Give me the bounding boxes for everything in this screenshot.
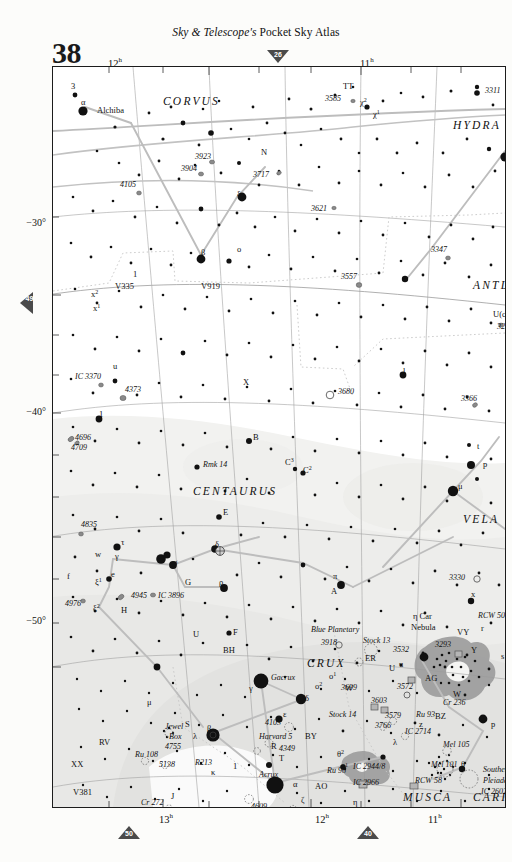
star-chart-map[interactable]: CORVUSHYDRAANTLIACENTAURUSVELACRUXMUSCAC… xyxy=(52,66,506,808)
dso-label: 3311 xyxy=(484,86,500,95)
star-label: β xyxy=(207,723,211,733)
dso-label: 4349 xyxy=(279,744,295,753)
masthead-title: Pocket Sky Atlas xyxy=(257,26,340,38)
constellation-name: HYDRA xyxy=(452,119,501,131)
dso-label: IC 2602 xyxy=(480,787,505,796)
star-label: V919 xyxy=(201,281,220,291)
page-link-left-label: 49 xyxy=(23,295,36,302)
dso-label: Stock 14 xyxy=(329,710,356,719)
star-label: ρ xyxy=(219,577,223,587)
star-label: δ xyxy=(305,693,309,703)
page-link-top[interactable]: 26 xyxy=(267,50,289,63)
dso-label: 4835 xyxy=(81,520,97,529)
page-link-bottom-left[interactable]: 50 xyxy=(118,826,140,839)
star-label: σ xyxy=(173,557,178,567)
star-label: f xyxy=(67,571,70,581)
dso-label: 3923 xyxy=(194,152,211,161)
star-label: V335 xyxy=(115,281,134,291)
dso-label: Pleiades xyxy=(482,776,505,785)
dso-label: Rmk 14 xyxy=(202,460,227,469)
constellation-name: MUSCA xyxy=(402,791,452,803)
dso-label: 3557 xyxy=(340,272,358,281)
star-label: γ xyxy=(248,683,253,693)
dso-label: 3366 xyxy=(460,394,477,403)
star-label: U(c) xyxy=(493,309,505,319)
star-label: G xyxy=(185,577,191,587)
dso-label: Cr 236 xyxy=(443,698,465,707)
dso-label: 4709 xyxy=(71,443,87,452)
star-label: 1 xyxy=(99,409,103,419)
star-label: η xyxy=(353,797,357,807)
dso-label: 3347 xyxy=(430,245,448,254)
dso-label: Ru 93 xyxy=(415,710,435,719)
dso-label: 3717 xyxy=(252,170,270,179)
page-number: 38 xyxy=(52,36,81,70)
dso-label: 3904 xyxy=(180,164,197,173)
star-label: B xyxy=(253,432,259,442)
dso-label: Southern xyxy=(483,765,505,774)
dso-label: IC 3370 xyxy=(74,372,101,381)
dso-label: 4755 xyxy=(165,742,181,751)
star-label: u xyxy=(113,361,118,371)
star-label: p xyxy=(483,459,487,469)
star-label: H xyxy=(121,605,127,615)
dso-label: 4105 xyxy=(120,180,136,189)
page-link-bottom-left-label: 50 xyxy=(118,830,140,837)
ra-label-bottom-11h: 11h xyxy=(428,812,442,825)
star-label: x1 xyxy=(93,303,100,313)
star-label: A xyxy=(331,586,338,596)
star-label: α xyxy=(81,97,86,107)
page-link-bottom-right-label: 40 xyxy=(357,830,379,837)
page-link-top-label: 26 xyxy=(267,51,289,58)
chart-canvas: CORVUSHYDRAANTLIACENTAURUSVELACRUXMUSCAC… xyxy=(53,67,505,807)
star-label: X xyxy=(243,377,249,387)
page-link-bottom-right[interactable]: 40 xyxy=(357,826,379,839)
constellation-name: CORVUS xyxy=(163,95,220,107)
star-label: S xyxy=(185,719,190,729)
dso-label: 3330 xyxy=(448,573,465,582)
dso-label: 3572 xyxy=(396,682,413,691)
dec-label-minus40: −40° xyxy=(2,406,46,417)
dso-label: IC 2966 xyxy=(352,778,379,787)
star-label: W xyxy=(345,683,353,693)
dec-label-minus50: −50° xyxy=(2,615,46,626)
star-label: Nebula xyxy=(411,622,436,632)
star-label: XX xyxy=(71,759,83,769)
dso-label: 3250 xyxy=(496,322,505,331)
dso-label: 4696 xyxy=(75,433,91,442)
constellation-name: CENTAURUS xyxy=(193,485,277,497)
dso-label: Harvard 5 xyxy=(258,732,292,741)
dso-label: 4103 xyxy=(265,718,281,727)
star-label: p xyxy=(491,719,495,729)
star-label: α xyxy=(293,779,298,789)
dso-label: Stock 13 xyxy=(363,636,390,645)
star-label: BH xyxy=(223,645,235,655)
star-label: w xyxy=(95,549,102,559)
ra-label-bottom-13h: 13h xyxy=(159,812,173,825)
star-label: t xyxy=(477,441,480,451)
star-label: o xyxy=(237,244,241,254)
star-label: ε xyxy=(283,709,287,719)
star-label: AO xyxy=(315,781,327,791)
dso-label: IC 2944/8 xyxy=(352,762,385,771)
dso-label: 3532 xyxy=(392,645,409,654)
dso-label: RCW 58 xyxy=(414,776,442,785)
star-label: R xyxy=(271,741,277,751)
page-link-left[interactable]: 49 xyxy=(20,292,33,314)
star-label: ER xyxy=(365,653,376,663)
ra-label-bottom-12h: 12h xyxy=(315,812,329,825)
dso-label: Ru 108 xyxy=(134,750,158,759)
star-label: N xyxy=(261,147,267,157)
star-label: BZ xyxy=(435,711,446,721)
dec-label-minus30: −30° xyxy=(2,217,46,228)
masthead-brand: Sky & Telescope's xyxy=(172,26,256,38)
star-label: W xyxy=(453,689,461,699)
dso-label: 3621 xyxy=(310,204,327,213)
dso-label: Blue Planetary xyxy=(311,625,360,634)
dso-label: 3293 xyxy=(434,640,451,649)
star-label: z xyxy=(419,719,423,729)
dso-label: Box xyxy=(169,732,182,741)
star-label: x2 xyxy=(91,289,98,299)
dso-label: Mel 101 xyxy=(430,760,457,769)
star-label: U xyxy=(193,629,199,639)
